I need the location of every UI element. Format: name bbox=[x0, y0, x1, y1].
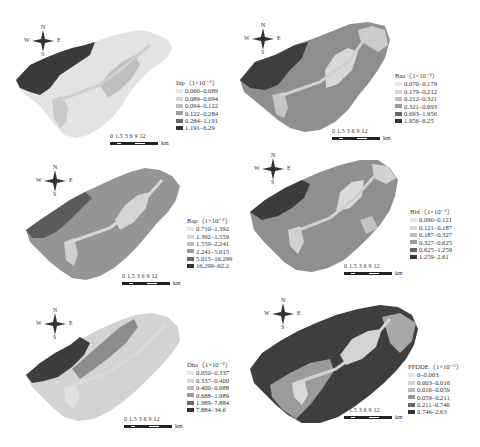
legend-row: 1.989–7.884 bbox=[187, 399, 232, 406]
legend-row: 0.212–0.321 bbox=[395, 95, 439, 102]
legend-row: 2.241–5.015 bbox=[187, 248, 232, 255]
north-arrow: N W E S bbox=[36, 307, 76, 343]
legend-row: 0.688–1.989 bbox=[187, 392, 232, 399]
legend-title: Dha（1×10⁻⁶） bbox=[187, 361, 232, 368]
legend-dha: Dha（1×10⁻⁶） 0.050–0.337 0.337–0.400 0.40… bbox=[187, 361, 232, 414]
scale-bar: 0 1.5 3 6 9 12 km bbox=[344, 263, 403, 276]
legend-inp: Inp（1×10⁻⁶） 0.060–0.089 0.089–0.094 0.09… bbox=[176, 79, 219, 132]
legend-row: 1.956–6.25 bbox=[395, 117, 439, 124]
north-arrow: N W E S bbox=[264, 297, 304, 333]
legend-row: 0.211–0.746 bbox=[408, 401, 463, 408]
legend-row: 0.090–0.121 bbox=[410, 216, 454, 223]
north-arrow: N W E S bbox=[244, 22, 284, 58]
legend-row: 0.746–2.63 bbox=[408, 408, 463, 415]
panel-bbf: N W E S Bbf（1×10⁻⁶） 0.090–0.121 0.121–0.… bbox=[240, 150, 480, 298]
legend-row: 0.693–1.956 bbox=[395, 110, 439, 117]
legend-row: 0.625–1.259 bbox=[410, 246, 454, 253]
legend-bap: Bap（1×10⁻⁶） 0.710–1.392 1.392–1.559 1.55… bbox=[187, 217, 232, 270]
legend-row: 0–0.003 bbox=[408, 371, 463, 378]
north-arrow: N W E S bbox=[36, 164, 76, 200]
legend-title: Bbf（1×10⁻⁶） bbox=[410, 208, 454, 215]
compass-rose-icon bbox=[44, 170, 66, 192]
legend-row: 0.187–0.327 bbox=[410, 231, 454, 238]
legend-row: 0.121–0.187 bbox=[410, 224, 454, 231]
legend-row: 0.016–0.059 bbox=[408, 386, 463, 393]
compass-rose-icon bbox=[272, 303, 294, 325]
legend-row: 0.070–0.179 bbox=[395, 80, 439, 87]
legend-bbf: Bbf（1×10⁻⁶） 0.090–0.121 0.121–0.187 0.18… bbox=[410, 208, 454, 261]
legend-row: 1.559–2.241 bbox=[187, 240, 232, 247]
legend-title: PPDDE（1×10⁻⁶） bbox=[408, 363, 463, 370]
legend-row: 0.710–1.392 bbox=[187, 225, 232, 232]
legend-row: 0.284–1.191 bbox=[176, 117, 219, 124]
compass-rose-icon bbox=[32, 30, 54, 52]
legend-row: 1.392–1.559 bbox=[187, 233, 232, 240]
legend-row: 0.089–0.094 bbox=[176, 95, 219, 102]
legend-row: 0.050–0.337 bbox=[187, 369, 232, 376]
legend-row: 0.122–0.284 bbox=[176, 110, 219, 117]
legend-title: Baa（1×10⁻⁶） bbox=[395, 72, 439, 79]
legend-row: 1.259–2.61 bbox=[410, 253, 454, 260]
panel-bap: N W E S Bap（1×10⁻⁶） 0.710–1.392 1.392–1.… bbox=[0, 150, 240, 298]
north-arrow: N W E S bbox=[254, 152, 294, 188]
legend-row: 0.400–0.688 bbox=[187, 384, 232, 391]
legend-title: Inp（1×10⁻⁶） bbox=[176, 79, 219, 86]
compass-rose-icon bbox=[252, 28, 274, 50]
legend-row: 0.094–0.122 bbox=[176, 102, 219, 109]
legend-row: 0.337–0.400 bbox=[187, 377, 232, 384]
legend-row: 16.299–62.2 bbox=[187, 262, 232, 269]
legend-row: 5.015–16.299 bbox=[187, 255, 232, 262]
panel-dha: N W E S Dha（1×10⁻⁶） 0.050–0.337 0.337–0.… bbox=[0, 297, 240, 445]
legend-ppdde: PPDDE（1×10⁻⁶） 0–0.003 0.003–0.016 0.016–… bbox=[408, 363, 463, 416]
legend-title: Bap（1×10⁻⁶） bbox=[187, 217, 232, 224]
compass-rose-icon bbox=[44, 313, 66, 335]
legend-row: 0.060–0.089 bbox=[176, 87, 219, 94]
north-arrow: N W E S bbox=[24, 24, 64, 60]
legend-row: 1.191–6.29 bbox=[176, 124, 219, 131]
scale-bar: 0 1.5 3 6 9 12 km bbox=[344, 407, 403, 420]
panel-inp: N W E S Inp（1×10⁻⁶） 0.060–0.089 0.089–0.… bbox=[0, 0, 240, 148]
scale-bar: 0 1.5 3 6 9 12 km bbox=[332, 128, 391, 141]
compass-rose-icon bbox=[262, 158, 284, 180]
legend-baa: Baa（1×10⁻⁶） 0.070–0.179 0.179–0.212 0.21… bbox=[395, 72, 439, 125]
scale-bar: 0 1.5 3 6 9 12 km bbox=[110, 133, 169, 146]
scale-bar: 0 1.5 3 6 9 12 km bbox=[124, 416, 183, 429]
legend-row: 0.321–0.693 bbox=[395, 103, 439, 110]
legend-row: 7.884–34.6 bbox=[187, 406, 232, 413]
legend-row: 0.179–0.212 bbox=[395, 88, 439, 95]
legend-row: 0.327–0.625 bbox=[410, 239, 454, 246]
legend-row: 0.059–0.211 bbox=[408, 394, 463, 401]
scale-bar: 0 1.5 3 6 9 12 km bbox=[122, 273, 181, 286]
panel-ppdde: N W E S PPDDE（1×10⁻⁶） 0–0.003 0.003–0.01… bbox=[240, 297, 480, 445]
legend-row: 0.003–0.016 bbox=[408, 379, 463, 386]
panel-baa: N W E S Baa（1×10⁻⁶） 0.070–0.179 0.179–0.… bbox=[240, 0, 480, 148]
